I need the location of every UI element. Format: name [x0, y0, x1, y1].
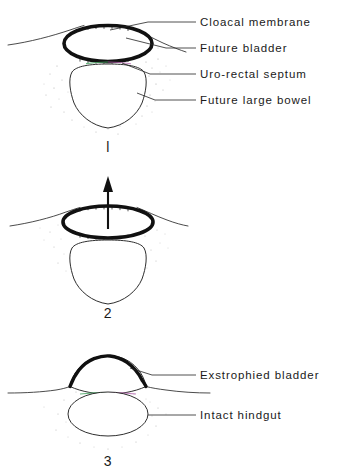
panel-number-2: 2 — [104, 305, 112, 321]
label-future-bladder: Future bladder — [200, 42, 287, 54]
future-large-bowel-shape — [70, 64, 146, 128]
exstrophy-development-diagram: Cloacal membrane Future bladder Uro-rect… — [0, 0, 340, 476]
label-cloacal-membrane: Cloacal membrane — [200, 16, 311, 28]
skin-contour-right-panel-3 — [146, 387, 210, 394]
panel-number-3: 3 — [104, 453, 112, 469]
future-large-bowel-shape-panel-2 — [70, 240, 146, 304]
skin-contour-left-panel-3 — [8, 387, 70, 394]
leader-future-large-bowel — [137, 93, 196, 100]
figure-root: Cloacal membrane Future bladder Uro-rect… — [0, 0, 340, 476]
intact-hindgut-shape — [68, 392, 148, 436]
cloacal-membrane-shape — [64, 26, 152, 62]
arrow-head-icon — [103, 176, 113, 192]
panel-1: Cloacal membrane Future bladder Uro-rect… — [8, 16, 311, 155]
panel-3: Exstrophied bladder Intact hindgut 3 — [8, 356, 319, 469]
label-uro-rectal-septum: Uro-rectal septum — [200, 68, 307, 80]
exstrophied-bladder-body — [70, 356, 146, 394]
panel-2: 2 — [10, 176, 188, 321]
panel-number-1: l — [106, 139, 110, 155]
label-future-large-bowel: Future large bowel — [200, 94, 311, 106]
label-intact-hindgut: Intact hindgut — [200, 409, 282, 421]
label-exstrophied-bladder: Exstrophied bladder — [200, 369, 319, 381]
